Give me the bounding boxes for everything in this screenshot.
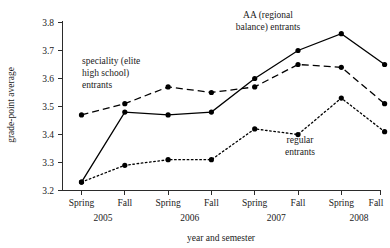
annotation-speciality: speciality (elite high school) entrants	[82, 56, 140, 90]
data-point-marker	[122, 110, 127, 115]
annotation-line: entrants	[82, 80, 112, 90]
y-axis-title: grade-point average	[6, 67, 16, 143]
x-tick-group: Spring Fall Spring Fall Spring Fall Spri…	[69, 191, 384, 209]
y-tick-label: 3.5	[42, 102, 54, 112]
data-point-marker	[382, 129, 387, 134]
x-tick-label: Spring	[329, 198, 355, 208]
y-tick-label: 3.4	[42, 130, 54, 140]
y-tick-label: 3.6	[42, 74, 54, 84]
annotation-aa: AA (regional balance) entrants	[236, 10, 301, 33]
annotation-line: regular	[287, 135, 315, 145]
y-tick-group: 3.2 3.3 3.4 3.5 3.6 3.7 3.8	[42, 18, 62, 196]
data-point-marker	[252, 76, 257, 81]
annotation-line: speciality (elite	[82, 56, 140, 67]
data-point-marker	[166, 84, 171, 89]
x-tick-label: Fall	[369, 198, 384, 208]
x-tick-label: Fall	[204, 198, 219, 208]
y-tick-label: 3.2	[42, 186, 54, 196]
x-tick-label: Fall	[291, 198, 306, 208]
data-point-marker	[295, 62, 300, 67]
y-tick-label: 3.7	[42, 46, 54, 56]
x-tick-label: Spring	[69, 198, 95, 208]
data-point-marker	[209, 110, 214, 115]
year-label-2006: 2006	[180, 213, 199, 223]
data-point-marker	[339, 65, 344, 70]
data-point-marker	[79, 112, 84, 117]
y-tick-label: 3.3	[42, 158, 54, 168]
data-point-marker	[295, 48, 300, 53]
data-point-marker	[382, 101, 387, 106]
annotation-line: balance) entrants	[236, 22, 301, 33]
data-point-marker	[166, 157, 171, 162]
data-point-marker	[339, 96, 344, 101]
series-layer	[79, 31, 387, 185]
data-point-marker	[382, 62, 387, 67]
data-point-marker	[79, 180, 84, 185]
y-tick-label: 3.8	[42, 18, 54, 28]
x-axis-title: year and semester	[187, 233, 256, 243]
x-tick-label: Spring	[155, 198, 181, 208]
year-label-2007: 2007	[267, 213, 286, 223]
data-point-marker	[166, 112, 171, 117]
data-point-marker	[209, 90, 214, 95]
annotation-line: entrants	[285, 147, 315, 157]
data-point-marker	[339, 31, 344, 36]
year-label-2008: 2008	[350, 213, 369, 223]
annotation-line: high school)	[82, 68, 129, 79]
data-point-marker	[252, 126, 257, 131]
data-point-marker	[122, 163, 127, 168]
year-label-2005: 2005	[94, 213, 113, 223]
data-point-marker	[209, 157, 214, 162]
x-year-group: 2005 2006 2007 2008	[94, 213, 369, 223]
annotation-line: AA (regional	[243, 10, 293, 21]
chart-container: 3.2 3.3 3.4 3.5 3.6 3.7 3.8 Spring Fall …	[0, 0, 390, 248]
x-tick-label: Fall	[117, 198, 132, 208]
x-tick-label: Spring	[242, 198, 268, 208]
line-chart: 3.2 3.3 3.4 3.5 3.6 3.7 3.8 Spring Fall …	[0, 0, 390, 248]
annotation-regular: regular entrants	[285, 135, 315, 157]
data-point-marker	[122, 101, 127, 106]
data-point-marker	[252, 84, 257, 89]
